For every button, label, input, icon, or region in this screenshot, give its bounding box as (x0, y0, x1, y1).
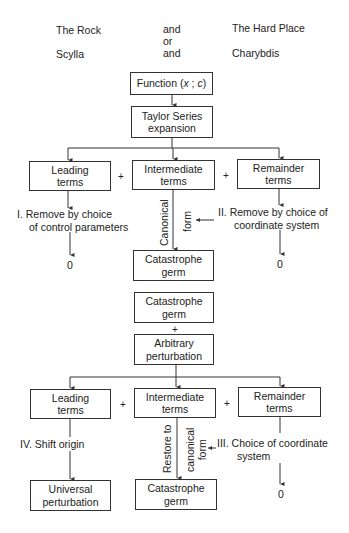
taylor-line1: Taylor Series (142, 110, 203, 123)
universal-line1: Universal (42, 483, 98, 496)
leading-terms-box-1: Leadingterms (29, 161, 111, 191)
germ3-line2: germ (147, 495, 204, 508)
charybdis-label: Charybdis (232, 47, 279, 59)
catastrophe-germ-box-3: Catastrophegerm (135, 479, 217, 510)
perturb-line1: Arbitrary (146, 337, 202, 350)
remainder-line1: Remainder (253, 162, 304, 175)
taylor-line2: expansion (142, 122, 203, 135)
step-I-line2: of control parameters (17, 221, 128, 234)
canonical-word: canonical (184, 428, 196, 472)
hard-place-label: The Hard Place (232, 22, 305, 34)
function-suffix: ) (203, 77, 207, 89)
catastrophe-germ-box-1: Catastrophegerm (133, 250, 214, 281)
step-III-line2: system (217, 450, 328, 463)
remainder2-line2: terms (254, 402, 305, 415)
germ-line1: Catastrophe (145, 253, 202, 266)
step-IV-label: IV. Shift origin (20, 438, 84, 451)
form-word: form (196, 428, 208, 472)
germ3-line1: Catastrophe (147, 482, 204, 495)
leading-terms-box-2: Leadingterms (30, 389, 111, 419)
or-label: or (163, 35, 172, 47)
intermediate-line1: Intermediate (144, 163, 202, 176)
step-III-label: III. Choice of coordinate system (217, 437, 328, 462)
plus-sign: + (224, 399, 230, 409)
universal-perturbation-box: Universalperturbation (30, 480, 111, 511)
and-bottom-label: and (163, 47, 181, 59)
and-top-label: and (163, 23, 181, 35)
form-label: form (181, 211, 193, 232)
intermediate2-line1: Intermediate (146, 391, 204, 404)
leading2-line2: terms (52, 404, 89, 417)
leading-line2: terms (51, 176, 88, 189)
step-II-label: II. Remove by choice of coordinate syste… (218, 206, 328, 231)
plus-sign: + (120, 400, 126, 410)
step-I-label: I. Remove by choice of control parameter… (17, 208, 128, 233)
function-box: Function (x ; c) (130, 72, 213, 95)
perturb-line2: perturbation (146, 350, 202, 363)
zero-right-2: 0 (278, 488, 284, 500)
intermediate2-line2: terms (146, 403, 204, 416)
germ2-line1: Catastrophe (145, 295, 202, 308)
leading2-line1: Leading (52, 392, 89, 405)
scylla-label: Scylla (56, 48, 84, 60)
remainder2-line1: Remainder (254, 390, 305, 403)
intermediate-terms-box-2: Intermediateterms (134, 388, 216, 418)
canonical-form-label: canonical form (184, 428, 208, 472)
intermediate-terms-box-1: Intermediateterms (132, 160, 215, 190)
zero-left-1: 0 (67, 259, 73, 271)
step-II-line1: II. Remove by choice of (218, 206, 328, 219)
step-II-line2: coordinate system (218, 219, 328, 232)
catastrophe-germ-box-2: Catastrophegerm (134, 292, 214, 323)
remainder-terms-box-2: Remainderterms (238, 387, 321, 417)
remainder-line2: terms (253, 174, 304, 187)
the-rock-label: The Rock (56, 24, 101, 36)
step-III-line1: III. Choice of coordinate (217, 437, 328, 450)
arbitrary-perturbation-box: Arbitraryperturbation (134, 334, 214, 365)
zero-right-1: 0 (277, 258, 283, 270)
germ2-line2: germ (145, 308, 202, 321)
intermediate-line2: terms (144, 175, 202, 188)
restore-to-label: Restore to (161, 425, 173, 473)
canonical-label: Canonical (158, 199, 170, 246)
function-prefix: Function ( (137, 77, 184, 89)
plus-sign: + (223, 171, 229, 181)
step-I-line1: I. Remove by choice (17, 208, 128, 221)
leading-line1: Leading (51, 164, 88, 177)
universal-line2: perturbation (42, 496, 98, 509)
remainder-terms-box-1: Remainderterms (237, 159, 320, 189)
germ-line2: germ (145, 266, 202, 279)
plus-sign: + (118, 172, 124, 182)
taylor-series-box: Taylor Seriesexpansion (131, 106, 213, 138)
